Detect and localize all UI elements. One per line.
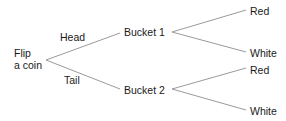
node-bucket-1: Bucket 1	[124, 26, 165, 38]
root-label-line2: a coin	[14, 59, 42, 71]
node-bucket1-white: White	[250, 47, 277, 59]
edge-bucket1-white	[172, 32, 246, 52]
node-bucket1-red: Red	[250, 5, 269, 17]
edge-tail	[46, 60, 120, 89]
edge-bucket2-red	[172, 68, 246, 89]
edge-label-tail: Tail	[64, 74, 80, 86]
edge-label-head: Head	[60, 31, 85, 43]
node-bucket-2: Bucket 2	[124, 84, 165, 96]
node-bucket2-red: Red	[250, 64, 269, 76]
edge-bucket2-white	[172, 89, 246, 110]
root-label-line1: Flip	[14, 47, 42, 59]
edge-bucket1-red	[172, 10, 246, 32]
node-bucket2-white: White	[250, 105, 277, 117]
root-node-label: Flip a coin	[14, 47, 42, 71]
tree-diagram	[0, 0, 286, 121]
